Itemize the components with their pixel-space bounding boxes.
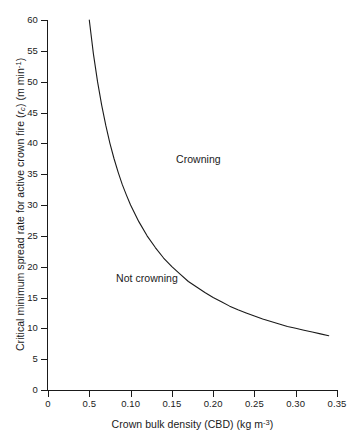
data-series-line: [89, 20, 328, 336]
y-tick-mark: [41, 82, 48, 83]
y-axis-title-tail: ): [14, 58, 26, 62]
x-tick-mark: [213, 391, 214, 397]
chart-figure: Crowning Not crowning 051015202530354045…: [0, 0, 357, 439]
y-tick-mark: [41, 267, 48, 268]
y-axis-title: Critical minimum spread rate for active …: [13, 9, 30, 399]
x-tick-mark: [89, 391, 90, 397]
x-tick-mark: [172, 391, 173, 397]
x-tick-label: 0.30: [273, 399, 319, 409]
y-tick-mark: [41, 143, 48, 144]
x-axis-title-text: Crown bulk density (CBD) (kg m: [112, 418, 263, 430]
x-axis-title-exponent: -3: [263, 418, 270, 427]
x-tick-mark: [337, 391, 338, 397]
y-axis-title-exponent: -1: [14, 61, 23, 68]
y-tick-mark: [41, 174, 48, 175]
y-tick-mark: [41, 328, 48, 329]
y-tick-mark: [41, 236, 48, 237]
x-tick-label: 0: [25, 399, 71, 409]
x-tick-label: 0.25: [231, 399, 277, 409]
x-axis-title: Crown bulk density (CBD) (kg m-3): [48, 417, 337, 430]
x-tick-label: 0.5: [66, 399, 112, 409]
x-tick-mark: [254, 391, 255, 397]
x-tick-mark: [296, 391, 297, 397]
y-tick-mark: [41, 390, 48, 391]
x-tick-label: 0.20: [190, 399, 236, 409]
y-tick-mark: [41, 51, 48, 52]
y-axis-title-text: Critical minimum spread rate for active …: [14, 114, 26, 351]
y-axis-title-mid: ) (m min: [14, 68, 26, 107]
x-axis-line: [47, 390, 338, 391]
y-tick-mark: [41, 298, 48, 299]
y-tick-mark: [41, 20, 48, 21]
annotation-not-crowning: Not crowning: [116, 272, 178, 284]
y-tick-mark: [41, 359, 48, 360]
curve-svg: [48, 20, 337, 390]
x-tick-label: 0.15: [149, 399, 195, 409]
x-tick-label: 0.10: [108, 399, 154, 409]
annotation-crowning: Crowning: [176, 153, 221, 165]
plot-area: Crowning Not crowning: [48, 20, 337, 390]
y-axis-title-variable: r: [14, 111, 26, 115]
x-tick-label: 0.35: [314, 399, 357, 409]
y-tick-mark: [41, 205, 48, 206]
y-tick-mark: [41, 113, 48, 114]
x-axis-title-tail: ): [270, 418, 274, 430]
x-tick-mark: [48, 391, 49, 397]
y-axis-title-variable-subscript: c: [18, 107, 27, 111]
x-tick-mark: [131, 391, 132, 397]
